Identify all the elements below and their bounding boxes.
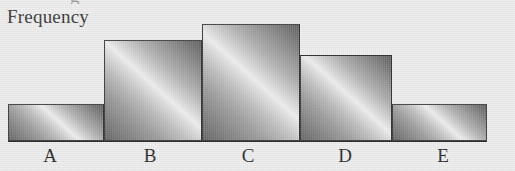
x-axis-tick-label-d: D bbox=[338, 145, 352, 167]
bar-gradient-sheen bbox=[105, 41, 201, 140]
y-axis-label: Frequency bbox=[7, 6, 89, 28]
frequency-histogram-figure: g Frequency ABCDE bbox=[0, 0, 515, 171]
x-axis-tick-label-b: B bbox=[144, 145, 157, 167]
bar-d[interactable] bbox=[300, 55, 392, 141]
bar-a[interactable] bbox=[8, 104, 104, 141]
x-axis-tick-label-c: C bbox=[242, 145, 255, 167]
bar-c[interactable] bbox=[202, 24, 300, 141]
bar-gradient-sheen bbox=[393, 105, 486, 140]
bar-b[interactable] bbox=[104, 40, 202, 141]
x-axis-tick-label-e: E bbox=[437, 145, 449, 167]
x-axis-tick-label-a: A bbox=[43, 145, 57, 167]
bar-gradient-sheen bbox=[203, 25, 299, 140]
bar-e[interactable] bbox=[392, 104, 487, 141]
bar-gradient-sheen bbox=[9, 105, 103, 140]
clipped-title-descender: g bbox=[70, 0, 94, 4]
x-axis-baseline bbox=[8, 140, 487, 142]
bar-gradient-sheen bbox=[301, 56, 391, 140]
